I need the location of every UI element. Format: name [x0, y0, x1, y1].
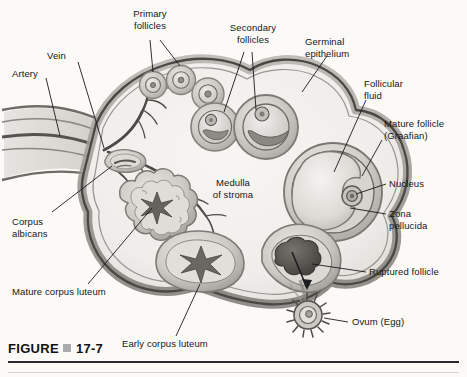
- label-mature-corpus-luteum: Mature corpus luteum: [12, 286, 106, 298]
- square-bullet-icon: [63, 344, 71, 352]
- primary-follicle-2: [167, 66, 196, 95]
- secondary-follicle-1: [191, 103, 239, 151]
- label-secondary-follicles: Secondary follicles: [212, 22, 294, 45]
- figure-caption-number: 17-7: [76, 341, 103, 356]
- figure-caption-prefix: FIGURE: [8, 341, 59, 356]
- figure-container: Primary follicles Secondary follicles Ge…: [0, 0, 467, 377]
- label-corpus-albicans: Corpus albicans: [12, 216, 48, 239]
- corpus-albicans: [105, 150, 146, 173]
- label-zona-pellucida: Zona pellucida: [389, 208, 427, 231]
- label-ovum: Ovum (Egg): [352, 316, 404, 328]
- secondary-follicle-2: [234, 95, 298, 159]
- label-ruptured-follicle: Ruptured follicle: [369, 266, 439, 278]
- label-primary-follicles: Primary follicles: [108, 8, 192, 31]
- label-nucleus: Nucleus: [389, 178, 424, 190]
- figure-caption-block: FIGURE17-7: [0, 341, 467, 377]
- leader-ovum: [324, 318, 348, 322]
- secondary-follicles-group: [191, 95, 298, 159]
- oocyte-nucleus: [350, 194, 354, 198]
- label-medulla: Medulla of stroma: [198, 177, 268, 200]
- label-follicular-fluid: Follicular fluid: [364, 78, 403, 101]
- primary-follicle-1: [140, 72, 167, 99]
- label-vein: Vein: [47, 50, 66, 62]
- label-mature-follicle: Mature follicle (Graafian): [384, 118, 444, 141]
- label-germinal-epithelium: Germinal epithelium: [305, 36, 349, 59]
- label-artery: Artery: [12, 68, 38, 80]
- caption-rule-secondary: [8, 372, 459, 373]
- caption-rule: [8, 361, 459, 363]
- early-corpus-luteum: [156, 231, 244, 292]
- figure-caption: FIGURE17-7: [8, 341, 103, 356]
